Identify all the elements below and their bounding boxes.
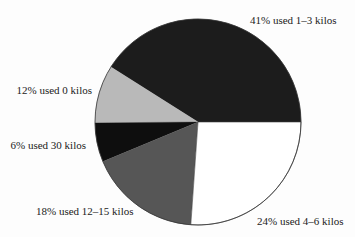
- pie-slice-4-6-kilos: [191, 122, 301, 225]
- label-4-6-kilos: 24% used 4–6 kilos: [257, 215, 343, 227]
- label-0-kilos: 12% used 0 kilos: [17, 84, 92, 96]
- label-30-kilos: 6% used 30 kilos: [11, 139, 86, 151]
- pie-slices: [95, 19, 301, 225]
- pie-chart: 41% used 1–3 kilos 12% used 0 kilos 6% u…: [0, 0, 355, 237]
- label-12-15-kilos: 18% used 12–15 kilos: [36, 205, 133, 217]
- label-1-3-kilos: 41% used 1–3 kilos: [250, 14, 336, 26]
